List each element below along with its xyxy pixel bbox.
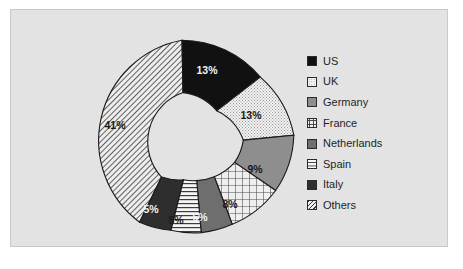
legend-label-netherlands: Netherlands: [323, 138, 382, 149]
slice-label-uk: 13%: [240, 109, 262, 121]
swatch-fine-dots-icon: [307, 77, 317, 87]
legend-item-others[interactable]: Others: [307, 195, 447, 216]
legend-item-us[interactable]: US: [307, 51, 447, 72]
legend-label-italy: Italy: [323, 179, 343, 190]
legend-label-us: US: [323, 56, 338, 67]
chart-screenshot: 13% 13% 9% 8% 6% 5% 5% 41% US UK: [0, 0, 463, 269]
donut-chart-svg: 13% 13% 9% 8% 6% 5% 5% 41%: [11, 10, 311, 248]
swatch-diagonal-lines-icon: [307, 200, 317, 210]
slice-label-spain: 5%: [168, 214, 184, 226]
donut-chart: 13% 13% 9% 8% 6% 5% 5% 41%: [11, 10, 311, 248]
slice-label-italy: 5%: [143, 203, 159, 215]
legend-label-france: France: [323, 118, 357, 129]
slice-label-germany: 9%: [247, 163, 263, 175]
legend-label-germany: Germany: [323, 97, 368, 108]
slice-label-france: 8%: [222, 198, 238, 210]
swatch-solid-near-black-icon: [307, 180, 317, 190]
slice-label-netherlands: 6%: [192, 211, 208, 223]
legend-item-uk[interactable]: UK: [307, 72, 447, 93]
legend-label-others: Others: [323, 200, 356, 211]
swatch-solid-gray-icon: [307, 97, 317, 107]
legend-label-uk: UK: [323, 76, 338, 87]
swatch-grid-icon: [307, 118, 317, 128]
legend-item-italy[interactable]: Italy: [307, 175, 447, 196]
legend-item-germany[interactable]: Germany: [307, 92, 447, 113]
chart-panel: 13% 13% 9% 8% 6% 5% 5% 41% US UK: [10, 9, 448, 247]
chart-legend: US UK Germany France Netherlands Spain: [307, 51, 447, 216]
slice-label-others: 41%: [104, 119, 126, 131]
legend-item-netherlands[interactable]: Netherlands: [307, 133, 447, 154]
legend-item-spain[interactable]: Spain: [307, 154, 447, 175]
swatch-solid-black-icon: [307, 56, 317, 66]
slice-label-us: 13%: [196, 64, 218, 76]
legend-item-france[interactable]: France: [307, 113, 447, 134]
legend-label-spain: Spain: [323, 159, 351, 170]
swatch-solid-dark-gray-icon: [307, 139, 317, 149]
swatch-horizontal-lines-icon: [307, 159, 317, 169]
